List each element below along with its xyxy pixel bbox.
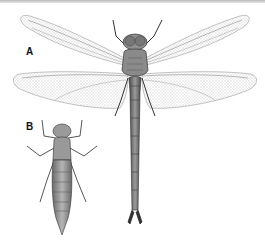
adult-hindwing-left xyxy=(13,72,128,109)
illustration xyxy=(0,0,265,246)
adult-forewing-left xyxy=(21,15,128,66)
adult-body xyxy=(122,34,148,224)
adult-forewing-right xyxy=(142,15,249,66)
adult-hindwing-right xyxy=(142,72,257,109)
figure-label-a: A xyxy=(26,47,33,57)
figure-label-b: B xyxy=(26,122,33,132)
nymph-body xyxy=(52,124,72,235)
